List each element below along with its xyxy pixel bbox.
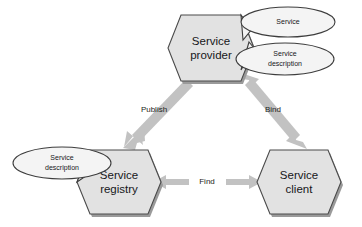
- edge-find: Find: [153, 175, 262, 189]
- diagram-canvas: Publish Bind Find Service provider Servi…: [0, 0, 362, 227]
- service-client-label-line2: client: [286, 183, 314, 195]
- service-registry-label-line2: registry: [100, 183, 138, 195]
- edge-label-bind: Bind: [265, 105, 281, 114]
- artifact-provider-service: Service: [241, 7, 335, 40]
- registry-description-label-line2: description: [45, 164, 79, 172]
- service-client-label-line1: Service: [280, 169, 318, 181]
- provider-description-label-line2: description: [268, 60, 302, 68]
- service-provider-hexagon: [168, 15, 254, 81]
- provider-service-label: Service: [276, 18, 299, 25]
- service-client-hexagon: [257, 150, 341, 214]
- provider-description-label-line1: Service: [273, 50, 296, 57]
- artifact-provider-service-description: Service description: [236, 42, 334, 75]
- registry-description-label-line1: Service: [50, 154, 73, 161]
- soa-diagram: Publish Bind Find Service provider Servi…: [0, 0, 362, 227]
- edge-bind: Bind: [238, 72, 307, 149]
- edge-label-find: Find: [199, 177, 215, 186]
- service-provider-label-line1: Service: [192, 35, 230, 47]
- node-service-client[interactable]: Service client: [257, 150, 343, 217]
- edge-publish: Publish: [123, 79, 193, 150]
- edge-label-publish: Publish: [141, 105, 167, 114]
- service-provider-label-line2: provider: [190, 49, 232, 61]
